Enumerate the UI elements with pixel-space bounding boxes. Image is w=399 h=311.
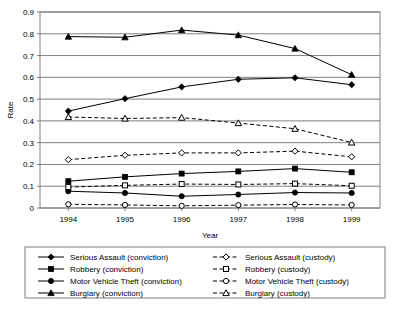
- y-tick-label: 0: [30, 204, 35, 213]
- y-tick-label: 0.6: [23, 73, 35, 82]
- legend-label: Motor Vehicle Theft (conviction): [70, 277, 182, 286]
- x-tick-label: 1998: [286, 215, 304, 224]
- data-point: [236, 203, 241, 208]
- y-tick-label: 0.7: [23, 52, 35, 61]
- plot-area: [37, 12, 380, 211]
- data-point: [123, 183, 128, 188]
- legend-label: Robbery (custody): [245, 265, 311, 274]
- data-point: [349, 190, 354, 195]
- y-tick-label: 0.4: [23, 117, 35, 126]
- data-point: [236, 169, 241, 174]
- legend-label: Serious Assault (conviction): [70, 253, 169, 262]
- data-point: [292, 202, 297, 207]
- data-point: [179, 182, 184, 187]
- line-chart-figure: 00.10.20.30.40.50.60.70.80.9 19941995199…: [0, 0, 399, 311]
- y-axis-title: Rate: [6, 101, 15, 118]
- data-point: [236, 192, 241, 197]
- legend: Serious Assault (conviction)Robbery (con…: [25, 247, 385, 298]
- data-point: [236, 182, 241, 187]
- legend-label: Motor Vehicle Theft (custody): [245, 277, 349, 286]
- legend-label: Burglary (custody): [245, 289, 310, 298]
- y-tick-label: 0.9: [23, 8, 35, 17]
- y-tick-label: 0.8: [23, 30, 35, 39]
- data-point: [122, 190, 127, 195]
- data-point: [292, 190, 297, 195]
- data-point: [179, 171, 184, 176]
- legend-label: Serious Assault (custody): [245, 253, 336, 262]
- legend-marker: [223, 278, 228, 283]
- legend-label: Burglary (conviction): [70, 289, 143, 298]
- data-point: [349, 170, 354, 175]
- y-tick-label: 0.5: [23, 95, 35, 104]
- y-tick-label: 0.3: [23, 139, 35, 148]
- x-tick-label: 1999: [343, 215, 361, 224]
- legend-marker: [48, 278, 53, 283]
- x-tick-label: 1996: [173, 215, 191, 224]
- data-point: [179, 194, 184, 199]
- data-point: [293, 166, 298, 171]
- data-point: [293, 181, 298, 186]
- legend-marker: [224, 267, 229, 272]
- plot-frame: [40, 12, 380, 208]
- x-axis-title: Year: [202, 231, 219, 240]
- legend-label: Robbery (conviction): [70, 265, 144, 274]
- data-point: [66, 202, 71, 207]
- x-tick-label: 1997: [229, 215, 247, 224]
- data-point: [179, 203, 184, 208]
- y-tick-label: 0.2: [23, 160, 35, 169]
- y-tick-label: 0.1: [23, 182, 35, 191]
- data-point: [122, 202, 127, 207]
- x-tick-label: 1994: [59, 215, 77, 224]
- data-point: [123, 174, 128, 179]
- data-point: [66, 185, 71, 190]
- legend-marker: [49, 267, 54, 272]
- data-point: [66, 179, 71, 184]
- data-point: [349, 183, 354, 188]
- data-point: [349, 202, 354, 207]
- x-tick-label: 1995: [116, 215, 134, 224]
